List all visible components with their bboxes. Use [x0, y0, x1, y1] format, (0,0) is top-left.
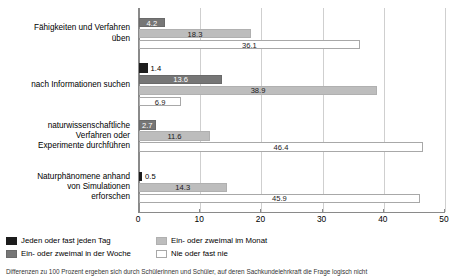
bar-row: 11.6 — [139, 131, 444, 141]
bar[interactable] — [139, 172, 142, 182]
bar-value-label: 14.3 — [139, 183, 227, 192]
bar-value-label: 1.4 — [151, 64, 162, 73]
bar-value-label: 0.5 — [145, 172, 156, 181]
legend-label: Ein- oder zweimal im Monat — [171, 236, 267, 245]
legend-item[interactable]: Jeden oder fast jeden Tag — [6, 236, 111, 245]
bar-value-label: 38.9 — [139, 86, 377, 95]
category-label: nach Informationen suchen — [0, 80, 130, 90]
bar-row: 4.2 — [139, 18, 444, 28]
legend-item[interactable]: Ein- oder zweimal in der Woche — [6, 249, 131, 258]
legend-swatch-icon — [156, 250, 167, 258]
bar-row: 38.9 — [139, 86, 444, 96]
bar-row: 36.1 — [139, 40, 444, 50]
bar-value-label: 4.2 — [139, 18, 165, 27]
x-tick-mark-50 — [444, 209, 445, 213]
bar-group: 4.218.336.1 — [139, 18, 444, 50]
x-tick-mark-30 — [322, 209, 323, 213]
legend-label: Jeden oder fast jeden Tag — [21, 236, 111, 245]
legend-swatch-icon — [6, 250, 17, 258]
x-tick-mark-20 — [260, 209, 261, 213]
bar-row: 46.4 — [139, 142, 444, 152]
category-label: Naturphänomene anhandvon Simulationenerf… — [0, 172, 130, 203]
category-axis-labels: Fähigkeiten und Verfahrenübennach Inform… — [0, 8, 134, 213]
x-tick-label-0: 0 — [136, 214, 141, 224]
x-tick-mark-10 — [199, 209, 200, 213]
x-tick-label-30: 30 — [317, 214, 326, 224]
bar-group: 1.413.638.96.9 — [139, 63, 444, 106]
legend-swatch-icon — [6, 237, 17, 245]
bar-group: 2.711.646.4 — [139, 120, 444, 152]
bar-row: 18.3 — [139, 29, 444, 39]
x-tick-mark-0 — [138, 209, 139, 213]
bar-row: 45.9 — [139, 194, 444, 204]
bar-value-label: 46.4 — [139, 143, 423, 152]
legend-label: Ein- oder zweimal in der Woche — [21, 249, 131, 258]
bar-group: 0.514.345.9 — [139, 172, 444, 204]
legend-label: Nie oder fast nie — [171, 249, 228, 258]
x-tick-label-10: 10 — [195, 214, 204, 224]
x-tick-mark-40 — [383, 209, 384, 213]
bar-value-label: 18.3 — [139, 29, 251, 38]
legend-item[interactable]: Ein- oder zweimal im Monat — [156, 236, 267, 245]
bar-value-label: 6.9 — [139, 97, 181, 106]
bar-row: 13.6 — [139, 75, 444, 85]
gridline-50 — [445, 8, 446, 212]
bar[interactable] — [139, 63, 148, 73]
bar-row: 1.4 — [139, 63, 444, 73]
x-tick-label-50: 50 — [439, 214, 448, 224]
legend-swatch-icon — [156, 237, 167, 245]
chart-legend: Jeden oder fast jeden TagEin- oder zweim… — [6, 236, 306, 262]
chart-footnote: Differenzen zu 100 Prozent ergeben sich … — [6, 268, 444, 276]
bar-value-label: 36.1 — [139, 40, 360, 49]
bar-value-label: 2.7 — [139, 121, 156, 130]
category-label: Fähigkeiten und Verfahrenüben — [0, 23, 130, 43]
bar-row: 0.5 — [139, 172, 444, 182]
category-label: naturwissenschaftlicheVerfahren oderExpe… — [0, 121, 130, 152]
legend-item[interactable]: Nie oder fast nie — [156, 249, 228, 258]
bar-row: 6.9 — [139, 97, 444, 107]
bar-value-label: 11.6 — [139, 132, 210, 141]
plot-area: 4.218.336.11.413.638.96.92.711.646.40.51… — [138, 8, 444, 213]
bar-row: 2.7 — [139, 120, 444, 130]
bar-value-label: 45.9 — [139, 194, 420, 203]
bar-value-label: 13.6 — [139, 75, 222, 84]
x-tick-label-20: 20 — [256, 214, 265, 224]
x-axis-ticks: 01020304050 — [138, 214, 444, 228]
x-tick-label-40: 40 — [378, 214, 387, 224]
bar-row: 14.3 — [139, 183, 444, 193]
